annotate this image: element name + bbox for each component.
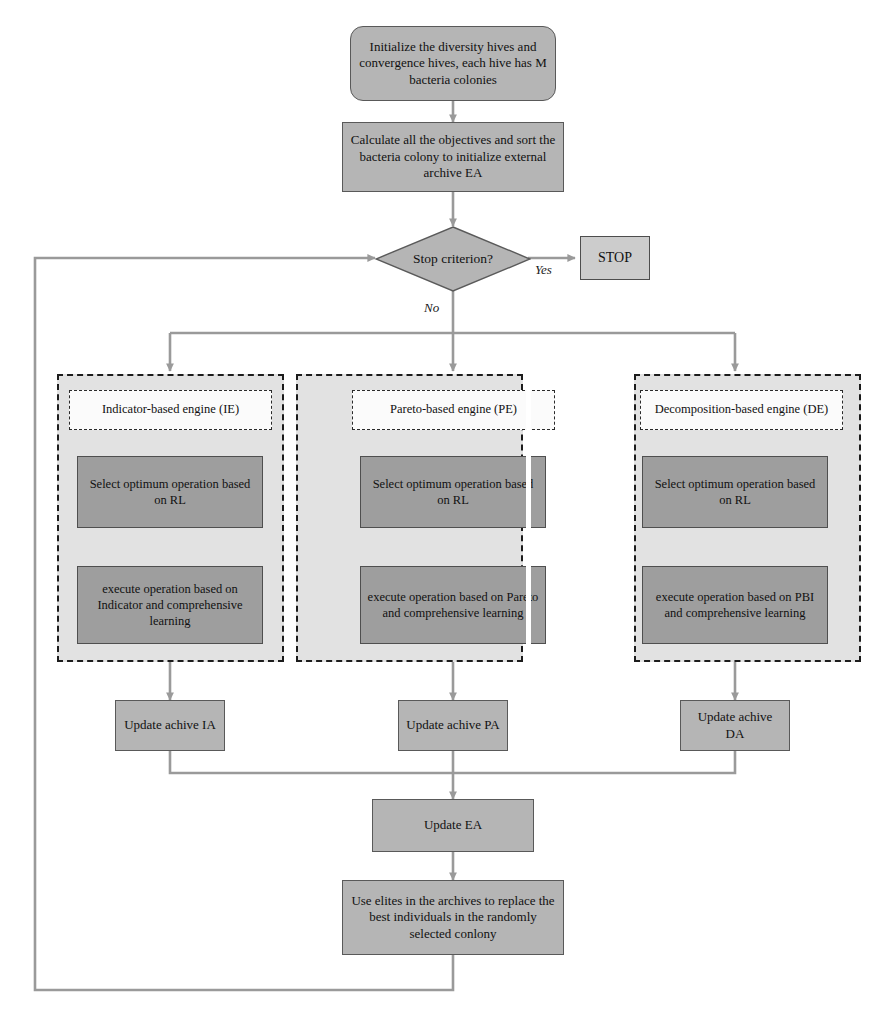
node-use-elites: Use elites in the archives to replace th… — [342, 880, 564, 955]
node-calculate: Calculate all the objectives and sort th… — [342, 122, 564, 192]
node-de-execute-label: execute operation based on PBI and compr… — [649, 589, 821, 621]
flowchart-canvas: Initialize the diversity hives and conve… — [0, 0, 894, 1024]
node-archive-da: Update achive DA — [680, 700, 790, 751]
node-use-elites-label: Use elites in the archives to replace th… — [349, 893, 557, 943]
node-stop: STOP — [580, 236, 650, 280]
node-pe-execute-label: execute operation based on Pareto and co… — [367, 589, 539, 621]
panel-gap-left — [290, 374, 296, 662]
node-archive-ia-label: Update achive IA — [124, 717, 216, 734]
edge-label-yes: Yes — [535, 262, 552, 278]
node-update-ea: Update EA — [372, 799, 534, 852]
wire-ia-merge — [170, 751, 453, 773]
panel-decomposition-engine-title: Decomposition-based engine (DE) — [640, 390, 843, 430]
node-archive-pa-label: Update achive PA — [406, 717, 499, 734]
panel-indicator-engine-title-label: Indicator-based engine (IE) — [102, 402, 239, 418]
node-update-ea-label: Update EA — [424, 817, 482, 834]
wire-da-merge — [453, 751, 735, 773]
node-de-select: Select optimum operation based on RL — [642, 456, 828, 528]
node-ie-select: Select optimum operation based on RL — [77, 456, 263, 528]
edge-label-no: No — [424, 300, 439, 316]
node-calculate-label: Calculate all the objectives and sort th… — [349, 132, 557, 182]
node-pe-select-label: Select optimum operation based on RL — [367, 476, 539, 508]
panel-gap-right — [526, 374, 531, 662]
node-decision-label: Stop criterion? — [375, 226, 531, 292]
panel-decomposition-engine-title-label: Decomposition-based engine (DE) — [655, 402, 829, 418]
node-ie-execute-label: execute operation based on Indicator and… — [84, 581, 256, 629]
panel-pareto-engine-title: Pareto-based engine (PE) — [352, 390, 555, 430]
panel-indicator-engine-title: Indicator-based engine (IE) — [69, 390, 272, 430]
node-de-select-label: Select optimum operation based on RL — [649, 476, 821, 508]
node-pe-select: Select optimum operation based on RL — [360, 456, 546, 528]
node-pe-execute: execute operation based on Pareto and co… — [360, 566, 546, 644]
node-ie-execute: execute operation based on Indicator and… — [77, 566, 263, 644]
node-archive-ia: Update achive IA — [115, 700, 225, 751]
node-stop-label: STOP — [598, 249, 632, 267]
node-ie-select-label: Select optimum operation based on RL — [84, 476, 256, 508]
node-de-execute: execute operation based on PBI and compr… — [642, 566, 828, 644]
node-archive-pa: Update achive PA — [398, 700, 508, 751]
node-decision: Stop criterion? — [375, 226, 531, 292]
panel-pareto-engine-title-label: Pareto-based engine (PE) — [390, 402, 517, 418]
node-archive-da-label: Update achive DA — [687, 709, 783, 742]
node-initialize: Initialize the diversity hives and conve… — [350, 26, 556, 101]
node-initialize-label: Initialize the diversity hives and conve… — [357, 39, 549, 89]
